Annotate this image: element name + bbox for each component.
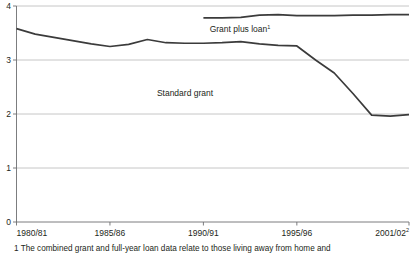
y-tick-label-2: 2 <box>6 109 11 119</box>
x-axis-tick-labels: 1980/811985/861990/911995/962001/022 <box>17 222 410 238</box>
x-tick-label-3: 1995/96 <box>281 228 312 238</box>
y-axis-tick-labels: 01234 <box>6 1 16 227</box>
chart-container: 01234 1980/811985/861990/911995/962001/0… <box>0 0 416 254</box>
chart-footnote: 1 The combined grant and full-year loan … <box>14 243 414 254</box>
y-tick-label-1: 1 <box>6 163 11 173</box>
x-tick-label-2: 1990/91 <box>188 228 219 238</box>
series-annotation-0: Grant plus loan1 <box>210 24 271 34</box>
x-tick-label-0: 1980/81 <box>17 228 48 238</box>
x-tick-label-1: 1985/86 <box>95 228 126 238</box>
line-chart-svg: 01234 1980/811985/861990/911995/962001/0… <box>0 0 416 254</box>
series-line-standard-grant <box>17 29 410 116</box>
y-tick-label-0: 0 <box>6 217 11 227</box>
x-tick-label-4: 2001/022 <box>375 227 409 237</box>
series-line-grant-plus-loan <box>203 15 409 18</box>
series-annotations: Grant plus loan1Standard grant <box>157 24 270 98</box>
series-annotation-1: Standard grant <box>157 88 214 98</box>
y-tick-label-4: 4 <box>6 1 11 11</box>
y-tick-label-3: 3 <box>6 55 11 65</box>
